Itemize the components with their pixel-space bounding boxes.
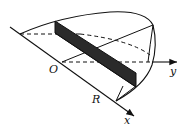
label-x: x — [124, 114, 131, 127]
label-origin: O — [49, 63, 58, 76]
top-curve — [20, 12, 153, 34]
right-curve-inner — [148, 25, 153, 62]
wedge-diagram: O R x y — [0, 0, 190, 136]
cross-section — [55, 21, 136, 87]
label-y: y — [169, 65, 177, 78]
right-curve — [116, 25, 155, 101]
label-radius: R — [91, 93, 100, 106]
